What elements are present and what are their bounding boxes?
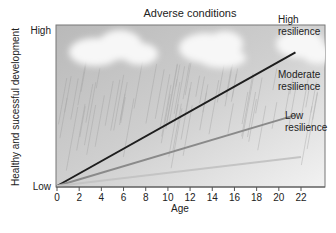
x-axis-label: Age <box>171 203 189 214</box>
x-tick-label: 22 <box>295 192 307 203</box>
series-label-moderate-resilience: Moderateresilience <box>278 69 321 92</box>
series-label-high-resilience: Highresilience <box>278 14 321 37</box>
chart-title: Adverse conditions <box>144 7 237 19</box>
x-tick-label: 4 <box>99 192 105 203</box>
x-tick-label: 10 <box>162 192 174 203</box>
y-axis-label: Healthy and sucessful development <box>10 28 21 186</box>
x-tick-label: 12 <box>185 192 197 203</box>
chart: Adverse conditions HighresilienceModerat… <box>0 0 336 233</box>
y-tick-label-low: Low <box>33 181 52 192</box>
x-tick-label: 16 <box>229 192 241 203</box>
x-tick-label: 0 <box>54 192 60 203</box>
y-tick-label-high: High <box>30 25 51 36</box>
x-tick-label: 14 <box>207 192 219 203</box>
x-tick-label: 8 <box>143 192 149 203</box>
x-tick-label: 2 <box>76 192 82 203</box>
x-tick-label: 6 <box>121 192 127 203</box>
x-tick-label: 18 <box>251 192 263 203</box>
x-tick-label: 20 <box>273 192 285 203</box>
